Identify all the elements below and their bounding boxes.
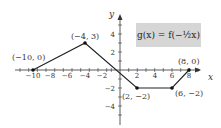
svg-text:6: 6 <box>170 72 175 80</box>
svg-text:−10: −10 <box>26 72 41 80</box>
y-axis-label: y <box>108 9 115 19</box>
formula-text: g(x) = f(−½x) <box>137 30 200 40</box>
svg-text:2: 2 <box>135 72 139 80</box>
svg-text:−4: −4 <box>80 72 91 80</box>
point-label: (−4, 3) <box>71 32 99 41</box>
svg-text:8: 8 <box>187 72 191 80</box>
chart: −10 −8 −6 −4 −2 2 4 6 8 4 2 −2 −4 x y (−… <box>0 0 221 128</box>
y-axis-arrow-icon <box>118 14 123 20</box>
svg-text:−6: −6 <box>62 72 73 80</box>
svg-text:−2: −2 <box>105 85 115 93</box>
svg-text:−8: −8 <box>45 72 55 80</box>
formula-box: g(x) = f(−½x) <box>136 23 201 47</box>
x-axis-label: x <box>208 72 213 82</box>
svg-text:−4: −4 <box>105 103 116 111</box>
point-label: (6, −2) <box>175 89 203 98</box>
svg-text:4: 4 <box>111 31 116 39</box>
point-label: (8, 0) <box>178 57 200 66</box>
point-label: (2, −2) <box>122 92 150 101</box>
x-tick-labels: −10 −8 −6 −4 −2 2 4 6 8 <box>26 72 192 80</box>
svg-text:2: 2 <box>111 49 115 57</box>
y-tick-labels: 4 2 −2 −4 <box>105 31 116 111</box>
svg-text:4: 4 <box>153 72 158 80</box>
svg-text:−2: −2 <box>97 72 107 80</box>
point-label: (−10, 0) <box>12 53 45 62</box>
